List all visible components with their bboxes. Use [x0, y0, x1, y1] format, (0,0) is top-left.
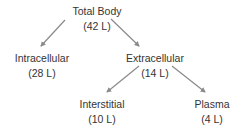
node-plasma: Plasma (4 L): [194, 97, 229, 126]
node-total-body-label: Total Body: [72, 4, 121, 19]
node-intracellular-label: Intracellular: [15, 51, 69, 66]
node-interstitial-value: (10 L): [80, 112, 125, 127]
node-interstitial-label: Interstitial: [80, 97, 125, 112]
node-total-body-value: (42 L): [72, 19, 121, 34]
node-extracellular: Extracellular (14 L): [126, 51, 184, 80]
node-extracellular-label: Extracellular: [126, 51, 184, 66]
node-total-body: Total Body (42 L): [72, 4, 121, 33]
fluid-compartment-diagram: Total Body (42 L) Intracellular (28 L) E…: [0, 0, 241, 128]
node-plasma-label: Plasma: [194, 97, 229, 112]
edge-total-body-to-intracellular: [41, 20, 65, 46]
node-plasma-value: (4 L): [194, 112, 229, 127]
node-interstitial: Interstitial (10 L): [80, 97, 125, 126]
node-intracellular-value: (28 L): [15, 66, 69, 81]
node-extracellular-value: (14 L): [126, 66, 184, 81]
node-intracellular: Intracellular (28 L): [15, 51, 69, 80]
